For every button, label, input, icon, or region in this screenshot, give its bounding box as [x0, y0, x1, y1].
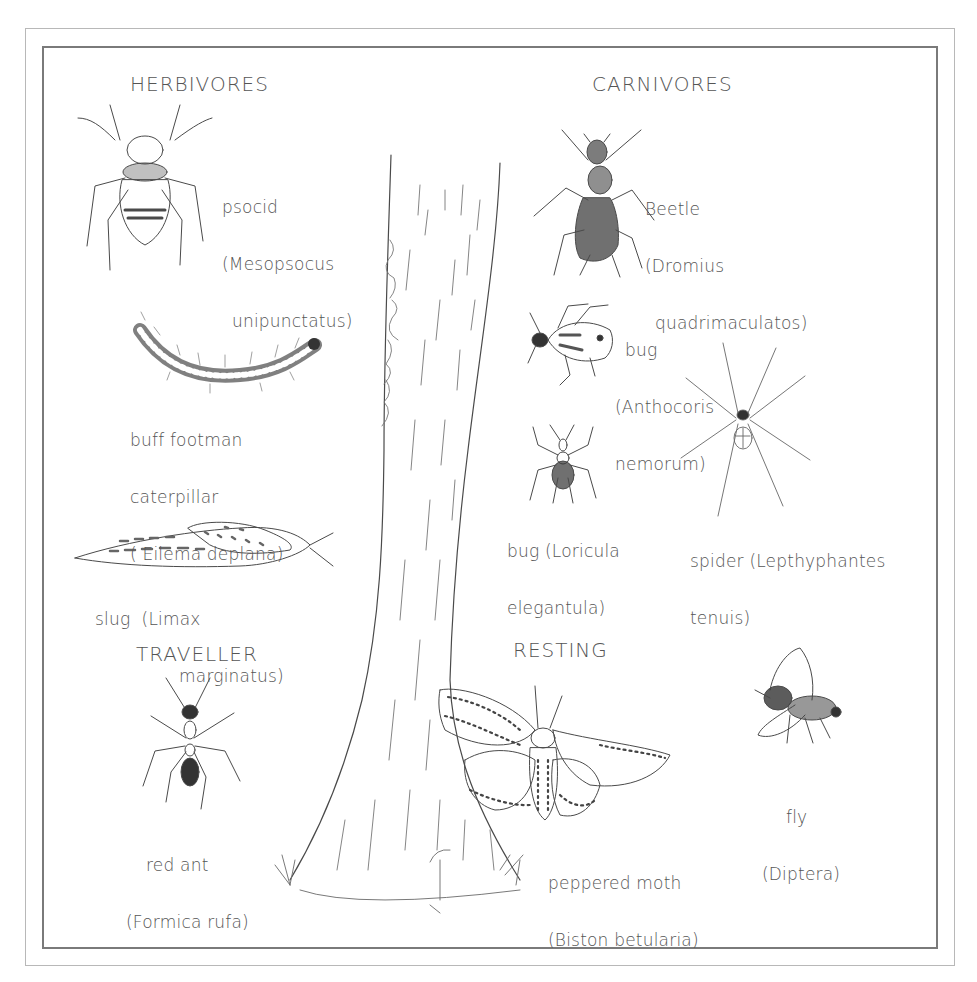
heading-carnivores: CARNIVORES	[592, 72, 733, 96]
loricula-bug-illustration	[530, 425, 596, 503]
label-caterpillar: buff footman caterpillar ( Eilema deplan…	[130, 393, 283, 583]
heading-herbivores: HERBIVORES	[130, 72, 269, 96]
fly-illustration	[755, 648, 841, 743]
heading-resting: RESTING	[513, 638, 608, 662]
label-loricula: bug (Loricula elegantula)	[507, 504, 620, 637]
label-spider: spider (Lepthyphantes tenuis)	[690, 514, 886, 647]
label-slug: slug (Limax marginatus)	[95, 572, 284, 705]
label-fly: fly (Diptera)	[762, 770, 840, 903]
label-psocid: psocid (Mesopsocus unipunctatus)	[222, 160, 353, 350]
psocid-illustration	[78, 105, 212, 270]
peppered-moth-illustration	[439, 686, 670, 820]
label-anthocoris: bug (Anthocoris nemorum)	[615, 303, 714, 493]
label-peppered-moth: peppered moth (Biston betularia)	[548, 836, 699, 969]
beetle-illustration	[534, 130, 654, 277]
label-red-ant: red ant (Formica rufa)	[126, 818, 249, 951]
anthocoris-bug-illustration	[528, 304, 612, 385]
